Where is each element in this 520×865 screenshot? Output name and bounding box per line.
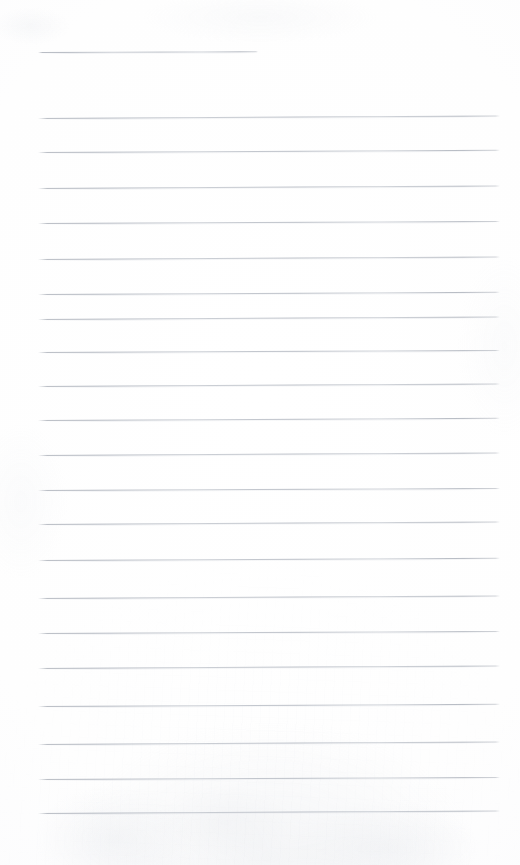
ruled-line [38,596,500,599]
ruled-line [38,150,500,153]
ruled-lines-layer [0,0,520,865]
ruled-line [38,522,500,525]
ruled-line [38,777,500,780]
ruled-line [38,488,500,491]
ruled-line [38,292,500,295]
ruled-line [38,418,500,421]
ruled-line [38,350,500,353]
ruled-line [38,742,500,745]
ruled-line [38,666,500,669]
ruled-line [38,631,500,634]
ruled-line [38,317,500,320]
ruled-line [38,257,500,260]
ruled-line [38,384,500,387]
ruled-line [38,116,500,119]
header-rule [38,51,258,53]
ruled-line [38,704,500,707]
ruled-line [38,186,500,189]
ruled-line [38,221,500,224]
ruled-line [38,453,500,456]
ruled-line [38,558,500,561]
notebook-page [0,0,520,865]
ruled-line [38,811,500,814]
